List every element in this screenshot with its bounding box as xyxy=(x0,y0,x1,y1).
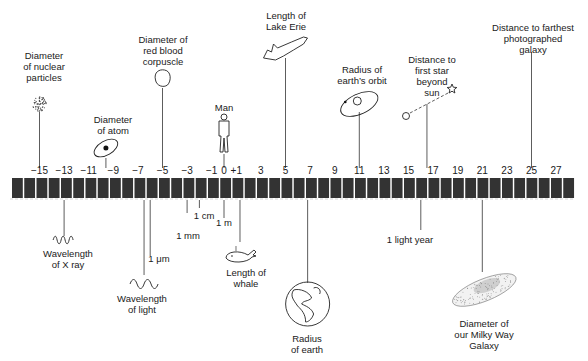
galaxy-star xyxy=(460,300,461,301)
scale-bar xyxy=(10,178,575,199)
galaxy-star xyxy=(502,285,503,286)
particle-dot xyxy=(39,104,40,105)
galaxy-star xyxy=(488,293,489,294)
tick-label: +1 xyxy=(231,165,242,176)
particle-dot xyxy=(38,108,39,109)
galaxy-star xyxy=(485,286,486,287)
scale-bar-segment xyxy=(49,178,60,198)
galaxy-star xyxy=(469,298,470,299)
galaxy-star xyxy=(496,292,497,293)
galaxy-star xyxy=(463,292,464,293)
particle-dot xyxy=(35,108,36,109)
galaxy-star xyxy=(456,299,457,300)
particle-dot xyxy=(39,101,40,102)
scale-bar-segment xyxy=(171,178,182,198)
galaxy-star xyxy=(477,296,478,297)
tick-label: 15 xyxy=(403,165,414,176)
scale-bar-segment xyxy=(331,178,342,198)
scale-bar-segment xyxy=(294,178,305,198)
tick-label: 21 xyxy=(477,165,488,176)
scale-bar-segment xyxy=(380,178,391,198)
galaxy-star xyxy=(475,293,476,294)
scale-bar-segment xyxy=(392,178,403,198)
tick-label: 27 xyxy=(551,165,562,176)
particle-dot xyxy=(42,102,43,103)
greenland xyxy=(314,287,321,294)
label-milky-way: Diameter of our Milky Way Galaxy xyxy=(446,318,522,351)
particle-dot xyxy=(33,107,34,108)
galaxy-star xyxy=(482,294,483,295)
galaxy-star xyxy=(484,298,485,299)
tick-label: 13 xyxy=(378,165,389,176)
galaxy-star xyxy=(498,276,499,277)
particle-dot xyxy=(38,107,39,108)
tick-label: −15 xyxy=(31,165,48,176)
particle-dot xyxy=(38,103,39,104)
particle-dot xyxy=(45,102,46,103)
tick-label: 23 xyxy=(501,165,512,176)
scale-bar-segment xyxy=(110,178,121,198)
galaxy-star xyxy=(472,296,473,297)
label-earth-orbit: Radius of earth’s orbit xyxy=(330,64,394,86)
scale-bar-segment xyxy=(551,178,562,198)
label-whale: Length of whale xyxy=(218,267,274,289)
galaxy-star xyxy=(473,299,474,300)
galaxy-star xyxy=(477,293,478,294)
whale-icon xyxy=(226,246,256,262)
scale-bar-segment xyxy=(502,178,513,198)
galaxy-star xyxy=(498,279,499,280)
particle-dot xyxy=(44,107,45,108)
lake-erie-icon xyxy=(264,37,308,60)
galaxy-star xyxy=(457,300,458,301)
tick-label: −11 xyxy=(81,165,97,176)
galaxy-star xyxy=(491,295,492,296)
label-meter: 1 m xyxy=(212,217,236,228)
scale-bar-segment xyxy=(233,178,244,198)
particle-dot xyxy=(37,110,38,111)
scale-bar-segment xyxy=(490,178,501,198)
galaxy-star xyxy=(460,297,461,298)
galaxy-star xyxy=(492,287,493,288)
scale-bar-segment xyxy=(257,178,268,198)
galaxy-star xyxy=(492,289,493,290)
tick-label: −7 xyxy=(132,165,143,176)
galaxy-star xyxy=(499,282,500,283)
galaxy-star xyxy=(469,303,470,304)
galaxy-star xyxy=(490,297,491,298)
galaxy-star xyxy=(487,289,488,290)
whale-eye xyxy=(231,255,233,257)
scale-bar-segment xyxy=(343,178,354,198)
particle-dot xyxy=(35,102,36,103)
scale-bar-segment xyxy=(245,178,256,198)
galaxy-star xyxy=(505,288,506,289)
particle-dot xyxy=(39,97,40,98)
label-man: Man xyxy=(206,102,242,113)
man-body xyxy=(219,121,229,152)
scale-bar-segment xyxy=(416,178,427,198)
galaxy-star xyxy=(473,303,474,304)
galaxy-star xyxy=(493,282,494,283)
scale-bar-segment xyxy=(12,178,23,198)
galaxy-star xyxy=(468,299,469,300)
scale-bar-segment xyxy=(429,178,440,198)
galaxy-star xyxy=(463,299,464,300)
scale-bar-segment xyxy=(318,178,329,198)
galaxy-star xyxy=(501,290,502,291)
galaxy-star xyxy=(470,298,471,299)
galaxy-star xyxy=(456,302,457,303)
tick-label: −13 xyxy=(56,165,73,176)
galaxy-star xyxy=(488,288,489,289)
scale-bar-segment xyxy=(184,178,195,198)
atom-icon xyxy=(91,135,121,160)
label-first-star: Distance to first star beyond sun xyxy=(402,54,462,98)
galaxy-star xyxy=(472,298,473,299)
particle-dot xyxy=(40,108,41,109)
scale-bar-segment xyxy=(441,178,452,198)
scale-bar-segment xyxy=(539,178,550,198)
particle-cloud-icon xyxy=(32,96,46,111)
tick-label: −3 xyxy=(181,165,192,176)
scale-bar-segment xyxy=(61,178,72,198)
label-earth: Radius of earth xyxy=(284,333,330,355)
galaxy-star xyxy=(464,302,465,303)
scale-bar-segment xyxy=(478,178,489,198)
